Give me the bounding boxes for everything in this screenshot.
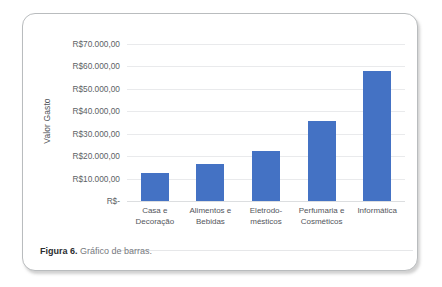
y-axis-tick-label: R$60.000,00 <box>72 61 120 71</box>
y-axis-tick-label: R$40.000,00 <box>72 106 120 116</box>
y-axis-tick-label: R$- <box>107 196 120 206</box>
category-label-line: Informática <box>347 206 407 217</box>
bar[interactable] <box>141 173 169 201</box>
figure-caption: Figura 6. Gráfico de barras. <box>40 246 152 256</box>
category-label-line: Cosméticos <box>292 217 352 228</box>
y-axis-tick-label: R$10.000,00 <box>72 174 120 184</box>
figure-card: Valor Gasto R$-R$10.000,00R$20.000,00R$3… <box>22 13 418 271</box>
bar[interactable] <box>363 71 391 201</box>
category-label-line: mésticos <box>236 217 296 228</box>
bar[interactable] <box>196 164 224 201</box>
category-label-line: Casa e <box>125 206 185 217</box>
y-axis-tick-label: R$30.000,00 <box>72 129 120 139</box>
category-label: Informática <box>347 206 407 217</box>
category-label-line: Bebidas <box>180 217 240 228</box>
gridline <box>127 201 405 202</box>
category-label-line: Perfumaria e <box>292 206 352 217</box>
y-axis-tick-label: R$20.000,00 <box>72 151 120 161</box>
category-label-line: Decoração <box>125 217 185 228</box>
plot-area: R$-R$10.000,00R$20.000,00R$30.000,00R$40… <box>127 44 405 201</box>
bar[interactable] <box>308 121 336 201</box>
category-axis-rule <box>119 250 413 251</box>
bar-chart: Valor Gasto R$-R$10.000,00R$20.000,00R$3… <box>23 20 417 236</box>
category-label: Casa eDecoração <box>125 206 185 227</box>
category-label: Perfumaria eCosméticos <box>292 206 352 227</box>
y-axis-tick-label: R$70.000,00 <box>72 39 120 49</box>
caption-text: Gráfico de barras. <box>80 246 152 256</box>
category-label-line: Eletrodo- <box>236 206 296 217</box>
y-axis-title: Valor Gasto <box>42 81 52 161</box>
y-axis-tick-label: R$50.000,00 <box>72 84 120 94</box>
category-label: Eletrodo-mésticos <box>236 206 296 227</box>
bar[interactable] <box>252 151 280 201</box>
caption-label: Figura 6. <box>40 246 78 256</box>
category-label: Alimentos eBebidas <box>180 206 240 227</box>
gridline <box>127 44 405 45</box>
gridline <box>127 66 405 67</box>
category-label-line: Alimentos e <box>180 206 240 217</box>
